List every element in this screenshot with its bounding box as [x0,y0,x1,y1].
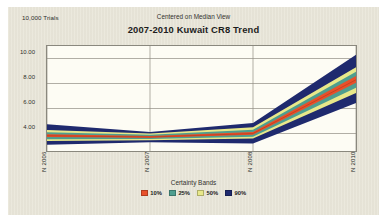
legend-swatch-icon [225,190,232,196]
legend-swatch-icon [169,190,176,196]
legend-entry[interactable]: 50% [197,190,218,196]
x-axis-tick: N 2008 [247,151,253,172]
legend-label: 50% [207,190,219,196]
y-axis-tick: 10.00 [20,49,35,55]
legend: 10%25%50%90% [8,190,379,196]
y-axis-tick: 4.00 [23,124,35,130]
legend-label: 10% [150,190,162,196]
y-axis-tick: 8.00 [23,74,35,80]
chart-title: 2007-2010 Kuwait CR8 Trend [8,24,379,35]
legend-label: 25% [178,190,190,196]
legend-entry[interactable]: 90% [225,190,246,196]
legend-entry[interactable]: 25% [169,190,190,196]
legend-swatch-icon [141,190,148,196]
certainty-band-plot [47,46,356,151]
legend-label: 90% [235,190,247,196]
chart-subtitle: Centered on Median View [8,13,379,20]
chart-canvas: 10,000 Trials Centered on Median View 20… [8,7,379,215]
plot-area [46,45,357,152]
y-axis-tick: 6.00 [23,99,35,105]
legend-swatch-icon [197,190,204,196]
x-axis-tick: N 2010 [350,151,356,172]
x-axis-tick: N 2006 [41,151,47,172]
x-axis-tick: N 2007 [144,151,150,172]
legend-title: Certainty Bands [8,179,379,186]
screenshot-root: 10,000 Trials Centered on Median View 20… [0,0,387,222]
legend-entry[interactable]: 10% [141,190,162,196]
